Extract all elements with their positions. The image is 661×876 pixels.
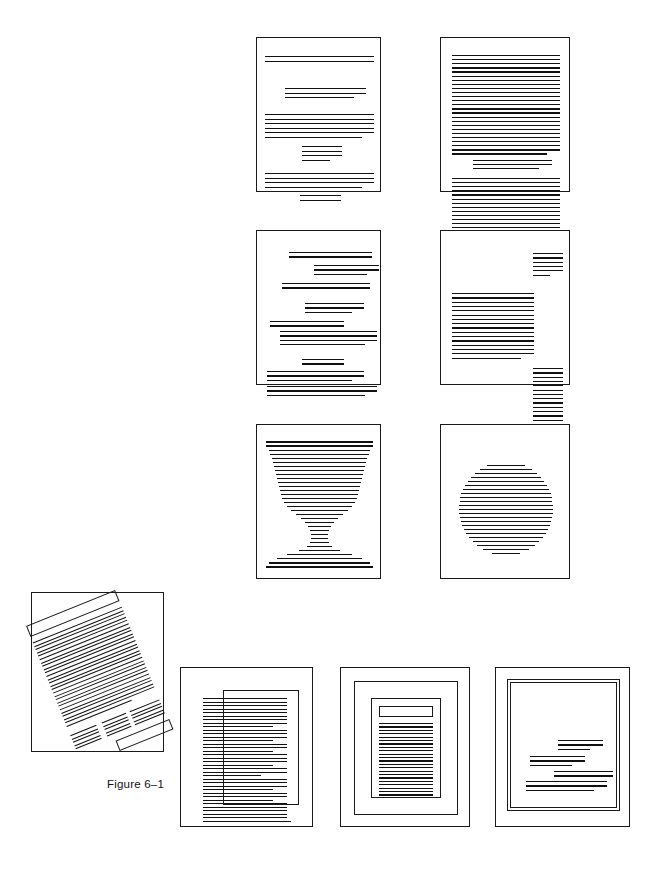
circle-rule bbox=[492, 553, 519, 554]
text-rule bbox=[533, 407, 563, 408]
text-rule bbox=[265, 128, 374, 129]
text-rule bbox=[452, 211, 560, 212]
goblet-rule bbox=[287, 554, 352, 555]
text-rule bbox=[285, 88, 366, 89]
circle-rule bbox=[463, 489, 549, 490]
text-rule bbox=[452, 319, 534, 320]
text-rule bbox=[452, 199, 560, 200]
text-rule bbox=[379, 777, 433, 778]
circle-rule bbox=[473, 541, 540, 542]
text-rule bbox=[452, 96, 560, 97]
goblet-rule bbox=[299, 550, 340, 551]
text-rule bbox=[558, 740, 603, 741]
page-content bbox=[441, 231, 569, 384]
page-layout-sparse-grouped-paragraphs bbox=[256, 37, 381, 192]
text-rule bbox=[473, 164, 552, 165]
text-rule bbox=[452, 297, 534, 298]
text-rule bbox=[558, 744, 603, 745]
goblet-rule bbox=[301, 518, 338, 519]
text-rule bbox=[533, 381, 563, 382]
circle-rule bbox=[464, 529, 548, 530]
text-rule bbox=[452, 145, 560, 146]
text-rule bbox=[452, 84, 560, 85]
text-rule bbox=[452, 310, 534, 311]
text-rule bbox=[473, 168, 539, 169]
text-rule bbox=[267, 390, 377, 391]
goblet-rule bbox=[275, 470, 364, 471]
circle-rule bbox=[460, 497, 551, 498]
figure-caption: Figure 6–1 bbox=[107, 778, 164, 790]
text-rule bbox=[300, 200, 341, 201]
text-rule bbox=[379, 791, 433, 792]
text-rule bbox=[379, 767, 433, 768]
page-content bbox=[441, 38, 569, 191]
circle-rule bbox=[465, 485, 547, 486]
text-rule bbox=[379, 754, 433, 755]
circle-rule bbox=[469, 537, 543, 538]
text-rule bbox=[530, 765, 572, 766]
text-rule bbox=[452, 92, 560, 93]
text-rule bbox=[452, 345, 534, 346]
page-content bbox=[32, 593, 163, 751]
text-rule bbox=[452, 302, 534, 303]
text-rule bbox=[282, 287, 370, 288]
text-rule bbox=[533, 257, 563, 258]
text-rule bbox=[289, 256, 372, 257]
text-rule bbox=[452, 332, 534, 333]
text-rule bbox=[452, 67, 560, 68]
text-rule bbox=[203, 817, 287, 818]
text-rule bbox=[305, 307, 364, 308]
text-rule bbox=[282, 283, 370, 284]
text-rule bbox=[265, 123, 374, 124]
text-rule bbox=[452, 306, 534, 307]
text-rule bbox=[379, 764, 433, 765]
text-rule bbox=[379, 743, 433, 744]
page-layout-staggered-indents bbox=[256, 230, 381, 385]
circle-rule bbox=[480, 469, 532, 470]
text-rule bbox=[452, 76, 560, 77]
page-layout-circle-silhouette bbox=[440, 424, 570, 579]
goblet-rule bbox=[308, 526, 331, 527]
text-rule bbox=[267, 375, 364, 376]
circle-rule bbox=[468, 481, 545, 482]
goblet-rule bbox=[296, 514, 343, 515]
text-rule bbox=[302, 155, 342, 156]
text-rule bbox=[452, 353, 534, 354]
goblet-rule bbox=[273, 462, 366, 463]
text-rule bbox=[280, 335, 377, 336]
circle-rule bbox=[461, 493, 550, 494]
text-rule bbox=[379, 781, 433, 782]
text-rule bbox=[533, 253, 563, 254]
tilted-content-block bbox=[22, 587, 171, 756]
text-rule bbox=[452, 323, 534, 324]
goblet-rule bbox=[272, 458, 367, 459]
text-rule bbox=[452, 349, 534, 350]
text-rule bbox=[533, 368, 563, 369]
text-rule bbox=[526, 781, 607, 782]
circle-rule bbox=[459, 509, 553, 510]
text-rule bbox=[452, 336, 534, 337]
circle-rule bbox=[459, 513, 552, 514]
text-rule bbox=[203, 807, 287, 808]
text-rule bbox=[452, 327, 534, 328]
circle-rule bbox=[462, 525, 550, 526]
goblet-rule bbox=[281, 494, 358, 495]
goblet-rule bbox=[310, 530, 329, 531]
text-rule bbox=[379, 760, 433, 761]
text-rule bbox=[265, 132, 374, 133]
text-rule bbox=[265, 119, 374, 120]
text-rule bbox=[533, 411, 563, 412]
text-rule bbox=[452, 55, 560, 56]
text-rule bbox=[452, 149, 560, 150]
text-rule bbox=[302, 151, 342, 152]
circle-rule bbox=[487, 465, 525, 466]
circle-rule bbox=[477, 545, 535, 546]
text-rule bbox=[452, 219, 560, 220]
text-rule bbox=[452, 88, 560, 89]
goblet-rule bbox=[266, 566, 373, 568]
text-rule bbox=[533, 275, 550, 276]
goblet-rule bbox=[270, 454, 369, 455]
goblet-rule bbox=[307, 546, 332, 547]
text-rule bbox=[379, 723, 433, 724]
goblet-rule bbox=[305, 522, 334, 523]
